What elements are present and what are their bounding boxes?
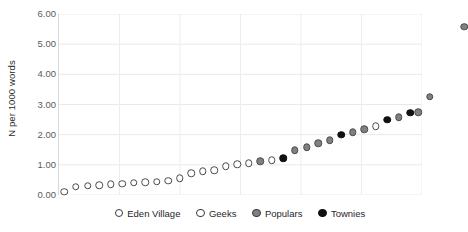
y-axis-tick-label: 2.00 <box>18 130 56 140</box>
legend-item-label: Populars <box>265 208 303 219</box>
data-point <box>268 157 276 165</box>
data-point <box>130 179 138 187</box>
data-point <box>234 160 242 168</box>
legend-item-populars[interactable]: Populars <box>252 208 302 219</box>
y-axis-tick-labels: 6.005.004.003.002.001.000.00 <box>14 0 56 232</box>
legend-item-eden-village[interactable]: Eden Village <box>115 208 181 219</box>
data-point <box>84 182 92 190</box>
legend-marker-icon <box>115 209 124 218</box>
data-point <box>188 170 196 178</box>
data-point <box>176 175 184 183</box>
data-point <box>211 167 219 175</box>
data-point <box>245 159 253 167</box>
data-point <box>314 139 322 147</box>
data-point <box>407 109 415 117</box>
y-axis-tick-label: 6.00 <box>18 9 56 19</box>
data-point <box>383 116 391 124</box>
data-point <box>349 129 357 137</box>
data-point <box>199 168 207 176</box>
data-point <box>257 157 265 165</box>
legend-item-label: Eden Village <box>127 208 180 219</box>
data-point <box>372 122 380 130</box>
y-axis-tick-label: 5.00 <box>18 39 56 49</box>
data-point <box>222 163 230 171</box>
y-axis-tick-label: 1.00 <box>18 160 56 170</box>
legend-item-geeks[interactable]: Geeks <box>196 208 236 219</box>
data-point <box>280 154 288 162</box>
legend-marker-icon <box>318 209 327 218</box>
legend-item-label: Geeks <box>209 208 236 219</box>
data-point <box>395 113 403 121</box>
legend-marker-icon <box>196 209 205 218</box>
data-point <box>426 93 434 101</box>
data-point <box>291 147 299 155</box>
data-point <box>326 136 334 144</box>
data-point <box>107 180 115 188</box>
y-axis-tick-label: 3.00 <box>18 100 56 110</box>
data-point <box>153 178 161 186</box>
y-axis-tick-label: 0.00 <box>18 190 56 200</box>
legend-item-label: Townies <box>331 208 365 219</box>
chart-legend: Eden VillageGeeksPopularsTownies <box>58 202 422 224</box>
legend-item-townies[interactable]: Townies <box>318 208 365 219</box>
data-point <box>414 108 422 116</box>
data-point <box>303 144 311 152</box>
data-point <box>118 180 126 188</box>
data-point <box>337 131 345 139</box>
data-point <box>72 183 80 191</box>
data-point <box>164 177 172 185</box>
legend-marker-icon <box>252 209 261 218</box>
data-point <box>61 188 69 196</box>
y-axis-tick-label: 4.00 <box>18 69 56 79</box>
data-point <box>461 23 468 31</box>
data-point <box>95 181 103 189</box>
data-point <box>141 179 149 187</box>
plot-area <box>58 14 422 195</box>
data-points-layer <box>59 14 422 195</box>
data-point <box>360 125 368 133</box>
